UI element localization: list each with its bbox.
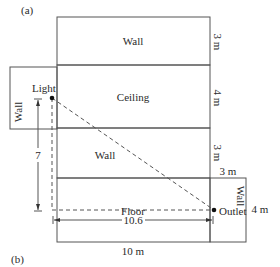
room-unfolded-diagram: (a) (b) Wall Ceiling Wall Floor Wall Wal… — [0, 0, 280, 267]
top-wall-label: Wall — [123, 35, 144, 47]
horizontal-run-label: 10.6 — [123, 214, 143, 226]
middle-wall-panel — [57, 128, 210, 178]
top-wall-height-label: 3 m — [212, 34, 224, 51]
room-length-label: 10 m — [122, 245, 145, 257]
outlet-point-icon — [212, 208, 217, 213]
middle-wall-label: Wall — [95, 149, 116, 161]
diagonal-path — [52, 98, 214, 210]
part-a-label: (a) — [21, 4, 34, 17]
ceiling-label: Ceiling — [117, 91, 150, 103]
light-label: Light — [32, 82, 56, 94]
ceiling-depth-label: 4 m — [212, 90, 224, 107]
vertical-run-label: 7 — [35, 149, 41, 161]
right-wall-width-label: 3 m — [220, 165, 237, 177]
part-b-label: (b) — [11, 253, 24, 266]
light-point-icon — [50, 96, 55, 101]
floor-depth-label: 4 m — [252, 203, 269, 215]
right-wall-label: Wall — [235, 186, 247, 207]
left-wall-label: Wall — [12, 102, 24, 123]
outlet-label: Outlet — [219, 205, 247, 217]
middle-wall-height-label: 3 m — [212, 145, 224, 162]
